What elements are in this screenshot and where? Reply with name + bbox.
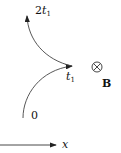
trajectory-upper-arc	[27, 16, 72, 66]
label-2t1: 2t1	[35, 5, 51, 18]
label-x-axis: x	[62, 139, 68, 150]
magnetic-field-into-page-icon	[92, 62, 102, 72]
label-origin: 0	[31, 110, 38, 121]
label-field-B: B	[102, 78, 111, 89]
label-t1: t1	[66, 71, 75, 84]
